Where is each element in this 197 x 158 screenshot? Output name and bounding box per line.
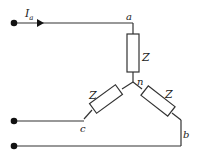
current-label: Ia [24,7,34,22]
phase-a-wire [14,23,133,34]
terminal-c-dot [11,118,18,125]
node-b-label: b [183,129,189,140]
wye-load-circuit: Ia a Z n Z Z c b [0,0,197,158]
impedance-c-label: Z [88,89,97,102]
impedance-a-label: Z [141,51,150,64]
impedance-a [127,34,139,72]
node-n-label: n [137,76,143,87]
node-c-label: c [80,123,86,134]
current-arrow-icon [37,19,44,27]
node-a-label: a [126,11,132,22]
terminal-b-dot [11,143,18,150]
impedance-b-label: Z [164,88,173,101]
phase-b-wire [14,120,181,146]
terminal-a-dot [11,20,18,27]
impedance-b-group [133,82,181,120]
